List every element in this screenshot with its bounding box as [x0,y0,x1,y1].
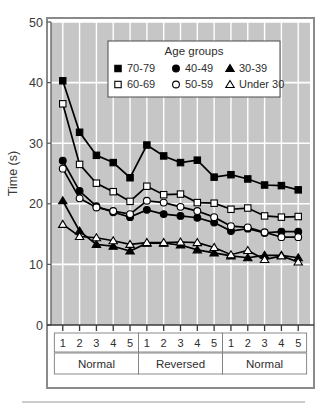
open-square-marker [194,199,200,205]
category-label: 4 [278,337,284,349]
open-square-marker [127,198,133,204]
open-circle-marker [76,195,83,202]
category-label: 3 [177,337,183,349]
filled-circle-marker [173,65,180,72]
category-label: 3 [93,337,99,349]
filled-square-marker [228,172,234,178]
category-label: 5 [295,337,301,349]
open-square-marker [261,213,267,219]
category-label: 2 [77,337,83,349]
open-circle-marker [160,199,167,206]
legend-item-label: 50-59 [185,78,213,90]
y-axis-tick-label: 10 [29,258,43,272]
open-circle-marker [228,223,235,230]
open-circle-marker [93,204,100,211]
group-label: Normal [78,358,115,370]
open-circle-marker [244,224,251,231]
category-label: 1 [228,337,234,349]
filled-square-marker [127,175,133,181]
open-square-marker [245,205,251,211]
filled-square-marker [278,182,284,188]
legend-item-label: 60-69 [127,78,155,90]
open-circle-marker [143,197,150,204]
category-label: 4 [110,337,116,349]
category-label: 2 [161,337,167,349]
y-axis-tick-label: 0 [36,319,43,333]
legend-title: Age groups [165,45,224,57]
filled-square-marker [160,153,166,159]
category-label: 1 [60,337,66,349]
filled-circle-marker [177,213,184,220]
filled-square-marker [110,159,116,165]
open-square-marker [76,161,82,167]
legend-item-label: 70-79 [127,62,155,74]
legend: Age groups70-7940-4930-3960-6950-59Under… [108,41,284,97]
filled-circle-marker [143,206,150,213]
filled-circle-marker [194,214,201,221]
open-square-marker [160,192,166,198]
legend-item-label: 30-39 [239,62,267,74]
category-label: 3 [262,337,268,349]
open-circle-marker [173,81,180,88]
legend-item-label: 40-49 [185,62,213,74]
category-label: 5 [127,337,133,349]
filled-square-marker [115,65,121,71]
filled-square-marker [60,78,66,84]
group-label: Normal [246,358,283,370]
open-circle-marker [177,203,184,210]
open-square-marker [60,101,66,107]
y-axis-tick-label: 30 [29,137,43,151]
open-square-marker [211,200,217,206]
filled-square-marker [144,142,150,148]
category-label: 2 [245,337,251,349]
open-circle-marker [110,208,117,215]
filled-square-marker [194,157,200,163]
open-circle-marker [59,165,66,172]
filled-square-marker [245,176,251,182]
open-square-marker [177,191,183,197]
open-circle-marker [127,211,134,218]
open-square-marker [110,188,116,194]
filled-square-marker [177,159,183,165]
x-axis-category-table: Normal12345Reversed12345Normal12345 [54,325,306,374]
open-circle-marker [194,208,201,215]
category-label: 1 [144,337,150,349]
filled-square-marker [76,129,82,135]
open-square-marker [115,81,121,87]
filled-circle-marker [59,157,66,164]
open-square-marker [228,206,234,212]
y-axis-tick-label: 50 [29,16,43,30]
filled-square-marker [295,187,301,193]
group-label: Reversed [156,358,205,370]
legend-item-label: Under 30 [239,78,284,90]
open-circle-marker [261,229,268,236]
y-axis-tick-label: 20 [29,197,43,211]
open-circle-marker [211,214,218,221]
open-square-marker [278,214,284,220]
filled-square-marker [261,182,267,188]
category-label: 4 [194,337,200,349]
filled-square-marker [93,152,99,158]
open-circle-marker [278,234,285,241]
y-axis-title: Time (s) [6,151,20,196]
open-square-marker [295,213,301,219]
time-vs-trial-line-chart: 01020304050Time (s)Age groups70-7940-493… [0,0,327,411]
category-label: 5 [211,337,217,349]
filled-square-marker [211,174,217,180]
chart-figure: 01020304050Time (s)Age groups70-7940-493… [0,0,327,411]
open-circle-marker [295,234,302,241]
y-axis-tick-label: 40 [29,76,43,90]
filled-circle-marker [160,211,167,218]
open-square-marker [144,183,150,189]
open-square-marker [93,180,99,186]
